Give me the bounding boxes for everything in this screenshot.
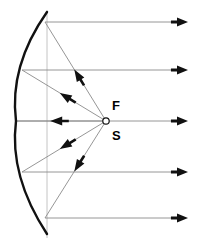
reflected-ray-3-arrowhead xyxy=(171,116,188,125)
incident-rays-group xyxy=(16,22,106,218)
focus-point-group xyxy=(103,118,109,124)
incident-bot-inner-arrowhead xyxy=(60,138,77,149)
optics-diagram: F S xyxy=(0,0,198,247)
parabolic-mirror-group xyxy=(15,12,47,234)
reflected-ray-1-arrowhead xyxy=(171,17,188,26)
reflected-ray-5-arrowhead xyxy=(171,213,188,222)
reflected-rays-group xyxy=(16,17,188,222)
reflected-ray-4-arrowhead xyxy=(171,167,188,176)
focus-source-point xyxy=(103,118,109,124)
incident-bot-outer-arrowhead xyxy=(74,155,85,171)
focus-label: F xyxy=(112,98,120,113)
incident-top-outer-arrowhead xyxy=(74,70,85,87)
reflected-ray-2-arrowhead xyxy=(171,65,188,74)
source-label: S xyxy=(112,128,121,143)
incident-vertex-arrowhead xyxy=(50,117,69,126)
incident-top-inner-arrowhead xyxy=(60,93,77,104)
parabolic-mirror xyxy=(15,12,47,234)
optics-diagram-canvas: F S xyxy=(0,0,198,247)
